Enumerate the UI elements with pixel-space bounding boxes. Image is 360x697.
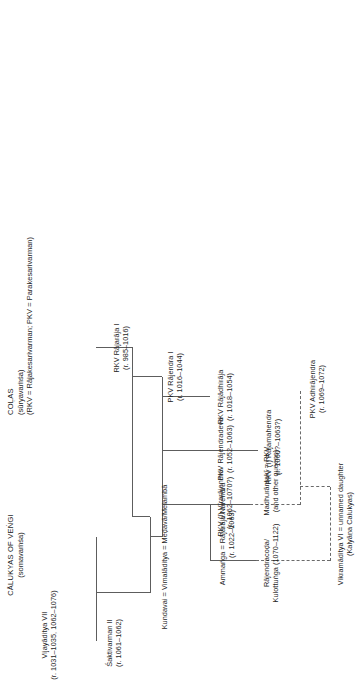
edge-to-rajendradeva (162, 450, 210, 451)
node-rajadhiraja-dates: (r. 1018–1054) (225, 347, 234, 447)
node-vijayaditya7: Vijayāditya VII (r. 1031–1035, 1062–1076… (40, 579, 58, 691)
node-rajamahendra-dates: (r. 1060?–1063?) (273, 391, 282, 503)
cola-title-line3: (RKV = Rājakesarivarman; PKV = Parakesar… (25, 85, 35, 415)
node-rajendra1: PKV Rājendra I (r. 1016–1044) (166, 329, 184, 425)
node-vikramaditya6-name: Vikramāditya VI = unnamed daughter (336, 439, 345, 609)
node-adhirajendra-dates: (r. 1069–1072) (317, 339, 326, 439)
node-saktivarman2: Śaktivarman II (r. 1061–1062) (105, 595, 123, 691)
edge-rajendra1-stem (132, 376, 162, 377)
cola-title-line2: (sūryavaṁśa) (16, 85, 26, 415)
node-rajadhiraja-name: RKV Rājādhirāja (216, 347, 225, 447)
cola-title: COĻAS (sūryavaṁśa) (RKV = Rājakesarivarm… (6, 85, 35, 415)
edge-rajaraja-sibling-bar (132, 347, 133, 517)
cola-title-line1: COĻAS (6, 85, 16, 415)
chalukya-title: CĀLUKYAS OF VEṄGI (somavaṁśa) (6, 465, 25, 645)
node-rajendra1-dates: (r. 1016–1044) (175, 329, 184, 425)
genealogy-canvas: CĀLUKYAS OF VEṄGI (somavaṁśa) COĻAS (sūr… (0, 0, 360, 697)
node-saktivarman2-dates: (r. 1061–1062) (114, 595, 123, 691)
node-vijayaditya7-dates: (r. 1031–1035, 1062–1076) (49, 579, 58, 691)
edge-kundavai-to-vijayaditya-stem (96, 592, 150, 593)
edge-kulottunga-join (210, 505, 211, 561)
node-rajaraja1-dates: (r. 985–1016) (121, 301, 130, 395)
node-rajamahendra: RKV (I) Rājamahendra (r. 1060?–1063?) (264, 391, 282, 503)
edge-vijayaditya-to-saktivarman (96, 593, 97, 641)
node-adhirajendra: PKV Adhirājendra (r. 1069–1072) (308, 339, 326, 439)
node-vikramaditya6-union: Vikramāditya VI = unnamed daughter (Kaly… (336, 439, 354, 609)
node-vijayaditya7-name: Vijayāditya VII (40, 579, 49, 691)
edge-kundavai-spine (150, 517, 151, 593)
node-kundavai-union: Kundavai = Vimalāditya = Meḍavā/Melambā (160, 477, 169, 637)
node-rajaraja1: RKV Rājarāja I (r. 985–1016) (112, 301, 130, 395)
edge-to-kundavai (132, 516, 150, 517)
node-rajendra1-name: PKV Rājendra I (166, 329, 175, 425)
node-vikramaditya6-dates: (Kalyāṇa Calukyas) (345, 439, 354, 609)
edge-vijayaditya-bar (96, 537, 97, 593)
node-saktivarman2-name: Śaktivarman II (105, 595, 114, 691)
node-kundavai-name: Kundavai = Vimalāditya = Meḍavā/Melambā (160, 477, 169, 637)
chalukya-title-line2: (somavaṁśa) (16, 465, 26, 645)
edge-dashed-vikramaditya-bar (330, 487, 331, 561)
node-rajadhiraja: RKV Rājādhirāja (r. 1018–1054) (216, 347, 234, 447)
chalukya-title-line1: CĀLUKYAS OF VEṄGI (6, 465, 16, 645)
node-rajaraja1-name: RKV Rājarāja I (112, 301, 121, 395)
rotated-chart-stage: CĀLUKYAS OF VEṄGI (somavaṁśa) COĻAS (sūr… (0, 0, 360, 697)
node-rajamahendra-name: RKV (I) Rājamahendra (264, 391, 273, 503)
edge-dashed-vikramaditya-stem (300, 486, 330, 487)
node-adhirajendra-name: PKV Adhirājendra (308, 339, 317, 439)
edge-dashed-to-adhirajendra (300, 391, 301, 505)
